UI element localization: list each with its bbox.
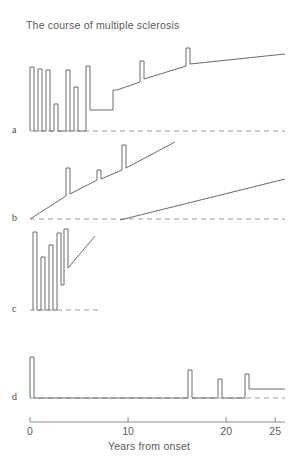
figure-canvas: The course of multiple sclerosis a b c d… xyxy=(0,0,298,461)
course-curve-b xyxy=(30,142,175,219)
course-curve-d xyxy=(30,357,285,398)
x-axis-caption: Years from onset xyxy=(108,440,190,452)
x-axis-tick-label-10: 10 xyxy=(122,425,134,437)
multiple-sclerosis-course-plot xyxy=(0,0,298,461)
course-curve-c xyxy=(33,229,95,310)
course-curve-a xyxy=(30,48,285,131)
x-axis-group xyxy=(30,417,285,422)
x-axis-tick-label-0: 0 xyxy=(27,425,33,437)
x-axis-tick-label-25: 25 xyxy=(269,425,281,437)
x-axis-tick-label-20: 20 xyxy=(220,425,232,437)
curve-group xyxy=(30,48,285,398)
x-axis-ticks xyxy=(30,417,275,422)
course-curve-b2 xyxy=(120,179,285,220)
